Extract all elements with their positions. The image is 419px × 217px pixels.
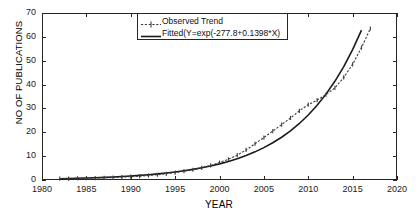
x-tick-2015: 2015 [333, 184, 373, 194]
observed-curve [60, 29, 371, 179]
legend-item-observed: Observed Trend [140, 15, 287, 27]
x-tick-1980: 1980 [22, 184, 62, 194]
x-tick-1990: 1990 [111, 184, 151, 194]
x-tick-2005: 2005 [244, 184, 284, 194]
observed-legend-swatch [140, 16, 162, 27]
y-tick-0: 0 [2, 174, 36, 184]
legend-item-fitted: Fitted(Y=exp(-277.8+0.1398*X) [140, 27, 287, 39]
x-tick-1995: 1995 [155, 184, 195, 194]
chart-figure: 010203040506070 198019851990199520002005… [0, 0, 419, 217]
legend-label-fitted: Fitted(Y=exp(-277.8+0.1398*X) [162, 28, 280, 39]
y-axis-title: NO OF PUBLICATIONS [13, 0, 24, 153]
x-axis-title: YEAR [129, 199, 309, 210]
x-tick-2020: 2020 [377, 184, 417, 194]
x-tick-2000: 2000 [200, 184, 240, 194]
observed-data-markers [60, 26, 371, 180]
x-tick-1985: 1985 [66, 184, 106, 194]
fitted-curve [60, 30, 362, 179]
chart-legend: Observed Trend Fitted(Y=exp(-277.8+0.139… [137, 13, 288, 40]
fitted-legend-swatch [140, 28, 162, 39]
legend-label-observed: Observed Trend [162, 16, 223, 27]
x-tick-2010: 2010 [288, 184, 328, 194]
